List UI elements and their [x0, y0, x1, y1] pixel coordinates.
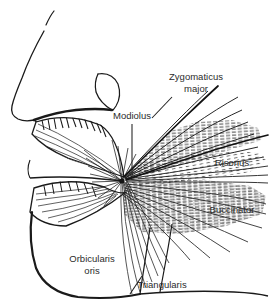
- label-zygomaticus-major-line2: major: [184, 83, 208, 94]
- label-risorius: Risorius: [215, 157, 250, 168]
- modiolus-point: [119, 178, 124, 183]
- label-buccinator: Buccinator: [210, 204, 255, 215]
- label-zygomaticus-major-line1: Zygomaticus: [169, 71, 223, 82]
- anatomical-figure: Zygomaticus major Modiolus Risorius Bucc…: [0, 0, 270, 306]
- label-triangularis: Triangularis: [137, 279, 187, 290]
- facial-muscle-diagram: Zygomaticus major Modiolus Risorius Bucc…: [0, 0, 270, 306]
- label-orbicularis-oris-line2: oris: [84, 265, 100, 276]
- label-modiolus: Modiolus: [113, 110, 151, 121]
- label-orbicularis-oris-line1: Orbicularis: [69, 253, 115, 264]
